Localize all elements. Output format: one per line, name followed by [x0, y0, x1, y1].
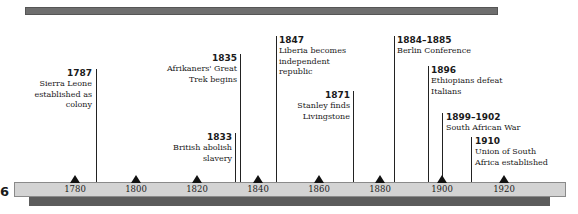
event-1833: 1833 British abolish slavery [173, 132, 232, 164]
event-text: Liberia becomes [279, 46, 346, 57]
tick-label: 1800 [125, 184, 147, 194]
event-line-1910 [471, 137, 472, 182]
event-line-1787 [96, 69, 97, 182]
event-1884-1885: 1884–1885 Berlin Conference [397, 35, 471, 57]
event-year: 1871 [297, 90, 350, 101]
tick-marker-icon [70, 175, 80, 183]
event-line-1847 [276, 36, 277, 182]
tick-label: 1880 [369, 184, 391, 194]
tick-label: 1920 [493, 184, 515, 194]
tick-marker-icon [499, 175, 509, 183]
event-text: Livingstone [297, 112, 350, 123]
tick-label: 1780 [64, 184, 86, 194]
event-line-1835 [240, 54, 241, 182]
event-line-1899 [442, 113, 443, 182]
event-line-1833 [235, 133, 236, 182]
event-text: Africa established [475, 158, 548, 169]
event-year: 1787 [34, 68, 92, 79]
event-year: 1910 [475, 136, 548, 147]
event-text: slavery [173, 154, 232, 165]
event-1910: 1910 Union of South Africa established [475, 136, 548, 168]
event-text: British abolish [173, 143, 232, 154]
event-text: Sierra Leone [34, 79, 92, 90]
event-year: 1899–1902 [446, 112, 520, 123]
tick-marker-icon [192, 175, 202, 183]
event-year: 1884–1885 [397, 35, 471, 46]
event-line-1871 [353, 91, 354, 182]
event-year: 1847 [279, 35, 346, 46]
event-text: Trek begins [167, 75, 237, 86]
event-line-1896 [428, 66, 429, 182]
event-text: South African War [446, 123, 520, 134]
timeline-axis-bar [14, 182, 566, 197]
tick-label: 1840 [247, 184, 269, 194]
tick-marker-icon [375, 175, 385, 183]
tick-label: 1820 [186, 184, 208, 194]
tick-label: 1900 [431, 184, 453, 194]
tick-marker-icon [131, 175, 141, 183]
event-text: Ethiopians defeat [431, 76, 502, 87]
event-1787: 1787 Sierra Leone established as colony [34, 68, 92, 111]
event-text: established as [34, 90, 92, 101]
event-line-1884 [394, 36, 395, 182]
event-1871: 1871 Stanley finds Livingstone [297, 90, 350, 122]
event-text: republic [279, 67, 346, 78]
tick-marker-icon [314, 175, 324, 183]
edge-glyph: 6 [0, 184, 9, 199]
event-year: 1835 [167, 53, 237, 64]
event-1835: 1835 Afrikaners' Great Trek begins [167, 53, 237, 85]
event-1896: 1896 Ethiopians defeat Italians [431, 65, 502, 97]
event-year: 1896 [431, 65, 502, 76]
top-decorative-bar [25, 7, 498, 15]
axis-shadow [29, 196, 550, 206]
event-text: Afrikaners' Great [167, 64, 237, 75]
event-text: independent [279, 57, 346, 68]
event-text: Berlin Conference [397, 46, 471, 57]
tick-marker-icon [253, 175, 263, 183]
event-year: 1833 [173, 132, 232, 143]
event-text: Italians [431, 87, 502, 98]
event-1899-1902: 1899–1902 South African War [446, 112, 520, 134]
event-1847: 1847 Liberia becomes independent republi… [279, 35, 346, 78]
event-text: Union of South [475, 147, 548, 158]
tick-marker-icon [437, 175, 447, 183]
event-text: Stanley finds [297, 101, 350, 112]
event-text: colony [34, 100, 92, 111]
tick-label: 1860 [308, 184, 330, 194]
